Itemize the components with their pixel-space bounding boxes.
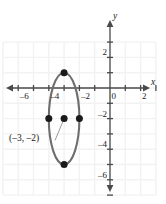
data-point-left-vertex bbox=[45, 115, 52, 122]
x-tick-label: 0 bbox=[112, 92, 117, 101]
x-axis-left-arrow-icon bbox=[6, 85, 13, 92]
point-coordinate-annotation: (–3, –2) bbox=[9, 134, 39, 144]
leader-line bbox=[55, 119, 64, 141]
x-axis-label: x bbox=[151, 78, 155, 88]
y-axis-label: y bbox=[113, 12, 117, 22]
x-tick-label: –4 bbox=[50, 92, 59, 101]
coordinate-plane-figure: –6–4–202 2–2–4–6 x y (–3, –2) bbox=[0, 0, 166, 204]
y-axis-down-arrow-icon bbox=[107, 185, 114, 192]
y-tick-label: –6 bbox=[97, 171, 107, 180]
data-point-center bbox=[61, 115, 68, 122]
y-tick-label: –4 bbox=[97, 140, 107, 149]
x-tick-label: 2 bbox=[142, 92, 147, 101]
data-point-top-vertex bbox=[61, 69, 68, 76]
graph-canvas bbox=[0, 0, 166, 204]
x-tick-label: –6 bbox=[20, 92, 29, 101]
y-tick-label: –2 bbox=[97, 110, 107, 119]
y-tick-label: 2 bbox=[97, 48, 107, 57]
data-point-right-vertex bbox=[76, 115, 83, 122]
x-tick-label: –2 bbox=[81, 92, 90, 101]
annotation-leader-line bbox=[55, 119, 64, 141]
data-point-bottom-vertex bbox=[61, 161, 68, 168]
